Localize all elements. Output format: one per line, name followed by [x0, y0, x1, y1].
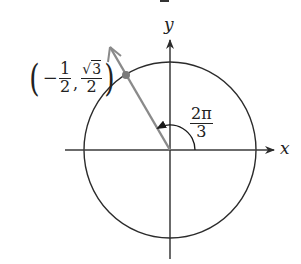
diagram-canvas [0, 0, 301, 264]
x-sign: − [43, 67, 58, 88]
y-axis-label: y [164, 16, 174, 33]
unit-circle-diagram: y x 2π 3 (− 1 2 , √3 2 ) [0, 0, 301, 264]
angle-denominator: 3 [195, 124, 207, 141]
sqrt-symbol: √ [82, 61, 91, 77]
angle-label: 2π 3 [190, 106, 213, 141]
point-coordinates-label: (− 1 2 , √3 2 ) [27, 59, 117, 97]
coordinate-comma: , [73, 74, 78, 93]
x-denominator: 2 [59, 79, 71, 96]
y-denominator: 2 [86, 79, 98, 96]
open-paren: ( [29, 59, 39, 97]
x-axis-label: x [280, 140, 290, 157]
close-paren: ) [104, 59, 114, 97]
y-radicand: 3 [91, 60, 101, 77]
x-numerator: 1 [59, 61, 71, 79]
point-marker [122, 71, 130, 79]
